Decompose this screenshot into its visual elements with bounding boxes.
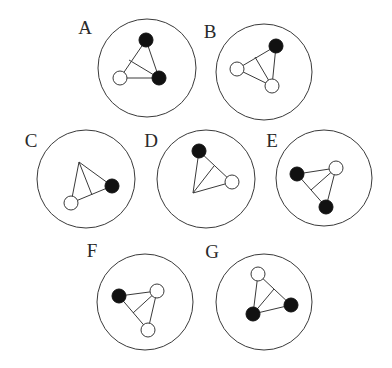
filled-node-icon xyxy=(290,167,304,181)
filled-node-icon xyxy=(139,33,153,47)
panel-label: B xyxy=(204,21,217,42)
filled-node-icon xyxy=(284,298,298,312)
panel-d: D xyxy=(144,130,255,228)
panel-label: C xyxy=(25,130,38,151)
open-node-icon xyxy=(329,161,343,175)
panel-label: D xyxy=(144,130,158,151)
triangle xyxy=(120,40,159,78)
panel-g: G xyxy=(205,241,312,350)
panel-f: F xyxy=(87,240,193,350)
open-node-icon xyxy=(230,62,244,76)
panel-label: E xyxy=(266,130,278,151)
filled-node-icon xyxy=(269,39,283,53)
open-node-icon xyxy=(265,79,279,93)
panel-e: E xyxy=(266,130,372,226)
filled-node-icon xyxy=(105,179,119,193)
open-node-icon xyxy=(64,196,78,210)
filled-node-icon xyxy=(246,307,260,321)
filled-node-icon xyxy=(319,200,333,214)
outer-circle xyxy=(157,130,255,228)
open-node-icon xyxy=(225,175,239,189)
panel-a: A xyxy=(78,17,196,117)
filled-node-icon xyxy=(192,144,206,158)
open-node-icon xyxy=(251,267,265,281)
open-node-icon xyxy=(141,323,155,337)
panel-label: G xyxy=(205,241,219,262)
panel-c: C xyxy=(25,130,135,228)
filled-node-icon xyxy=(112,289,126,303)
filled-node-icon xyxy=(152,71,166,85)
open-node-icon xyxy=(150,284,164,298)
panel-label: A xyxy=(78,17,92,38)
panel-b: B xyxy=(204,21,312,120)
open-node-icon xyxy=(113,71,127,85)
circle-diagram-figure: ABCDEFG xyxy=(0,0,392,368)
panel-label: F xyxy=(87,240,98,261)
